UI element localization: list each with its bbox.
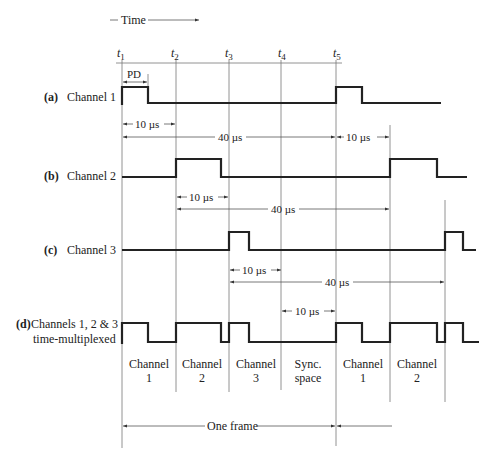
- channel-3-waveform: [122, 232, 476, 250]
- channel-2-row: (b) Channel 2 10 µs 40 µs: [44, 159, 467, 215]
- multiplexed-label-line2: time-multiplexed: [33, 332, 116, 346]
- channel-2-tag: (b): [44, 169, 59, 183]
- ch1-offset-label: 10 µs: [135, 118, 159, 130]
- sync-width-dimension: 10 µs: [282, 305, 335, 317]
- slot-labels: Channel 1 Channel 2 Channel 3 Sync. spac…: [129, 357, 438, 385]
- channel-1-label: Channel 1: [67, 90, 116, 104]
- multiplexed-waveform: [122, 323, 479, 344]
- pd-label: PD: [127, 68, 141, 80]
- frame-dimension: One frame: [123, 419, 392, 433]
- channel-3-tag: (c): [44, 243, 57, 257]
- ch1-period-label: 40 µs: [218, 131, 242, 143]
- sync-width-label: 10 µs: [295, 305, 319, 317]
- t1-label: t1: [117, 46, 125, 62]
- channel-2-waveform: [122, 159, 467, 177]
- vertical-gridlines: [122, 60, 445, 448]
- slot-6-line2: 2: [414, 371, 420, 385]
- frame-label: One frame: [207, 419, 258, 433]
- slot-1-line2: 1: [146, 371, 152, 385]
- t3-label: t3: [225, 46, 233, 62]
- multiplexed-row: (d) Channels 1, 2 & 3 time-multiplexed: [16, 317, 479, 346]
- ch2-offset-label: 10 µs: [189, 191, 213, 203]
- channel-2-label: Channel 2: [67, 169, 116, 183]
- slot-5-line2: 1: [360, 371, 366, 385]
- channel-3-row: (c) Channel 3 10 µs 40 µs: [44, 232, 476, 288]
- multiplexed-label-line1: Channels 1, 2 & 3: [31, 317, 118, 331]
- t2-label: t2: [171, 46, 179, 62]
- channel-1-tag: (a): [44, 90, 58, 104]
- ch3-offset-label: 10 µs: [242, 264, 266, 276]
- channel-1-waveform: [122, 87, 441, 105]
- t4-label: t4: [278, 46, 286, 62]
- slot-2-line1: Channel: [182, 357, 223, 371]
- slot-5-line1: Channel: [343, 357, 384, 371]
- time-label: Time: [121, 13, 146, 27]
- channel-3-label: Channel 3: [67, 243, 116, 257]
- slot-3-line2: 3: [253, 371, 259, 385]
- multiplexed-tag: (d): [16, 317, 31, 331]
- time-marks: t1 t2 t3 t4 t5: [117, 46, 341, 62]
- channel-1-row: (a) Channel 1 PD 10 µs 40 µs 10 µs: [44, 68, 441, 143]
- ch2-period-label: 40 µs: [271, 203, 295, 215]
- slot-3-line1: Channel: [236, 357, 277, 371]
- t5-label: t5: [333, 46, 341, 62]
- slot-2-line2: 2: [199, 371, 205, 385]
- tdm-timing-diagram: Time t1 t2 t3 t4 t5 (a) Channel 1 PD 10 …: [0, 0, 493, 463]
- slot-6-line1: Channel: [397, 357, 438, 371]
- time-axis-header: Time: [110, 13, 199, 27]
- ch1-after-label: 10 µs: [346, 131, 370, 143]
- slot-1-line1: Channel: [129, 357, 170, 371]
- slot-sync-line2: space: [295, 371, 322, 385]
- ch3-period-label: 40 µs: [325, 276, 349, 288]
- slot-sync-line1: Sync.: [295, 357, 322, 371]
